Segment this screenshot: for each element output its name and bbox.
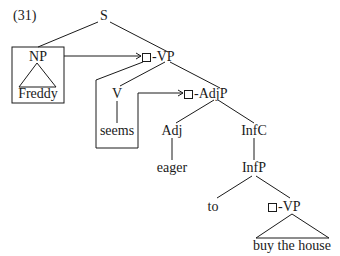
word-freddy: Freddy — [18, 87, 58, 101]
node-lower-vp: -VP — [268, 200, 301, 214]
example-number: (31) — [13, 9, 36, 23]
node-vp: -VP — [142, 50, 175, 64]
words-buy-the-house: buy the house — [253, 239, 331, 253]
empty-box-icon — [184, 90, 193, 99]
node-adjp: -AdjP — [184, 87, 227, 101]
node-infp: InfP — [242, 161, 266, 175]
word-seems: seems — [100, 124, 134, 138]
empty-box-icon — [142, 53, 151, 62]
node-infc: InfC — [241, 124, 267, 138]
node-adj: Adj — [162, 124, 183, 138]
node-v: V — [112, 87, 122, 101]
node-np: NP — [29, 50, 47, 64]
node-s: S — [100, 9, 108, 23]
word-eager: eager — [157, 161, 187, 175]
word-to: to — [208, 200, 219, 214]
empty-box-icon — [268, 203, 277, 212]
